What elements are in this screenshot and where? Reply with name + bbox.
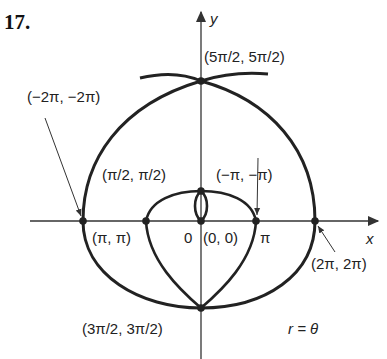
label-3pi2: (3π/2, 3π/2): [82, 320, 163, 337]
point-5pi2: [197, 77, 205, 85]
point-pi: [142, 217, 150, 225]
label-neg-2pi: (−2π, −2π): [27, 88, 100, 105]
point-3pi2: [197, 304, 205, 312]
figure-number: 17.: [4, 10, 30, 34]
label-pi2: (π/2, π/2): [102, 166, 166, 183]
arrow-neg-2pi: [45, 118, 81, 216]
point-origin: [197, 217, 205, 225]
origin-label: 0: [184, 229, 192, 246]
equation-label: r = θ: [288, 320, 318, 337]
pi-tick-label: π: [260, 229, 270, 246]
label-pi: (π, π): [92, 229, 131, 246]
polar-graph: 17. y x (5π/2, 5π/2) (−2π, −2π) (π/2, π/…: [0, 0, 387, 359]
point-pi2: [197, 187, 205, 195]
inner-lower-left-curve: [146, 221, 201, 308]
x-axis-label: x: [365, 230, 374, 247]
point-neg-pi: [252, 217, 260, 225]
point-2pi: [311, 217, 319, 225]
y-axis-label: y: [209, 10, 219, 27]
label-5pi2: (5π/2, 5π/2): [204, 48, 285, 65]
arrow-2pi: [318, 226, 335, 252]
point-neg-2pi: [79, 217, 87, 225]
label-2pi: (2π, 2π): [311, 255, 367, 272]
label-origin: (0, 0): [203, 229, 238, 246]
label-neg-pi: (−π, −π): [216, 166, 273, 183]
